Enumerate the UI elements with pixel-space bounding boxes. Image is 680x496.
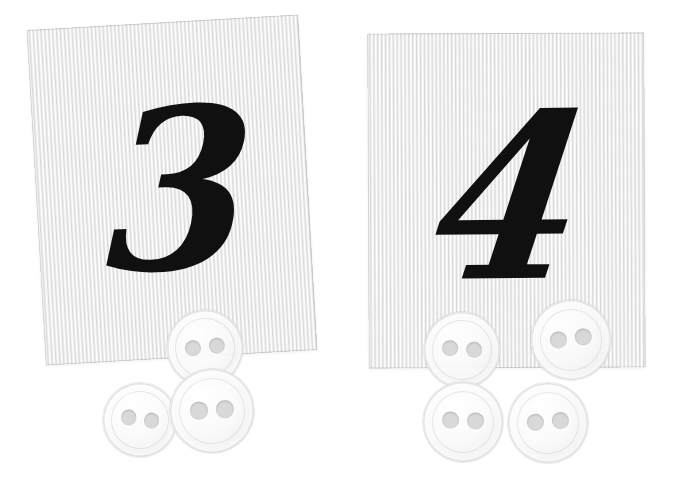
- button-hole-icon: [190, 401, 209, 420]
- button-hole-icon: [442, 340, 459, 357]
- button-hole-icon: [216, 400, 235, 419]
- button-hole-icon: [465, 341, 482, 358]
- button-hole-icon: [467, 413, 484, 430]
- numeral-3: 3: [104, 77, 258, 305]
- button-hole-icon: [184, 339, 202, 357]
- scene-canvas: 3 4: [0, 0, 680, 496]
- button-hole-icon: [120, 409, 138, 427]
- button-hole-icon: [574, 328, 593, 347]
- button-hole-icon: [208, 337, 226, 355]
- button-right-lower-left[interactable]: [422, 381, 505, 464]
- button-left-right[interactable]: [168, 367, 256, 455]
- button-right-lower-right[interactable]: [505, 380, 590, 465]
- button-hole-icon: [551, 412, 569, 430]
- button-hole-icon: [442, 412, 459, 429]
- button-hole-icon: [143, 412, 161, 430]
- button-hole-icon: [549, 331, 568, 350]
- button-hole-icon: [527, 414, 545, 432]
- button-left-lower[interactable]: [98, 378, 182, 462]
